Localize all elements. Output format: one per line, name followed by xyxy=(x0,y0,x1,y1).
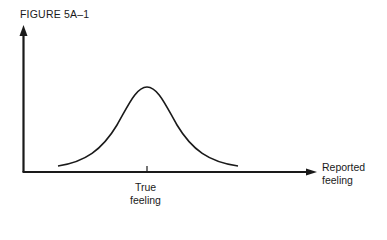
x-axis-label-line2: feeling xyxy=(322,174,365,187)
tick-label-line1: True xyxy=(130,181,161,194)
y-axis-arrow-icon xyxy=(20,25,28,36)
x-axis-label: Reported feeling xyxy=(322,161,365,187)
tick-label-line2: feeling xyxy=(130,194,161,207)
bell-curve xyxy=(58,87,238,166)
tick-label: True feeling xyxy=(130,181,161,207)
x-axis-arrow-icon xyxy=(306,169,317,176)
x-axis-label-line1: Reported xyxy=(322,161,365,174)
